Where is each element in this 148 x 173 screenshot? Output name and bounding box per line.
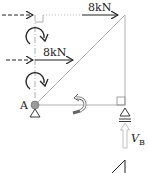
moment-arrow-upper-icon (26, 28, 48, 44)
right-angle-marker-top (35, 15, 43, 22)
reaction-arrow-vb-icon (121, 123, 130, 148)
partial-triangle-bottom (112, 160, 125, 173)
force-label-top: 8kN (88, 1, 112, 14)
pin-support-a-icon (30, 109, 40, 117)
right-angle-marker-b (117, 97, 125, 105)
roller-support-b-icon (120, 108, 130, 116)
force-label-mid: 8kN (43, 46, 67, 59)
node-a-label: A (19, 99, 29, 112)
rotation-arrow-icon (73, 94, 85, 113)
moment-arrow-lower-icon (26, 73, 48, 89)
reaction-label-vb-subscript: B (139, 138, 145, 147)
truss-diagram: 8kN 8kN A V B (0, 0, 148, 173)
node-a (31, 101, 39, 109)
